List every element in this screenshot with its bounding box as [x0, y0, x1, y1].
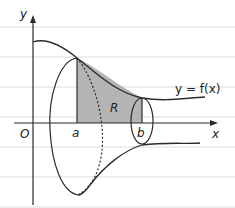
region-label: R: [110, 101, 118, 115]
y-axis-label: y: [19, 7, 28, 21]
x-axis-label: x: [211, 127, 220, 141]
origin-label: O: [20, 127, 29, 141]
curve-f-mirror: [78, 145, 142, 195]
b-label: b: [137, 126, 145, 140]
curve-label: y = f(x): [175, 82, 220, 96]
x-axis-arrow-icon: [210, 120, 218, 126]
diagram-canvas: y x O a b R y = f(x): [0, 0, 235, 208]
y-axis-arrow-icon: [30, 15, 36, 23]
a-label: a: [72, 126, 79, 140]
curve-f-mirror-tail: [142, 143, 200, 145]
